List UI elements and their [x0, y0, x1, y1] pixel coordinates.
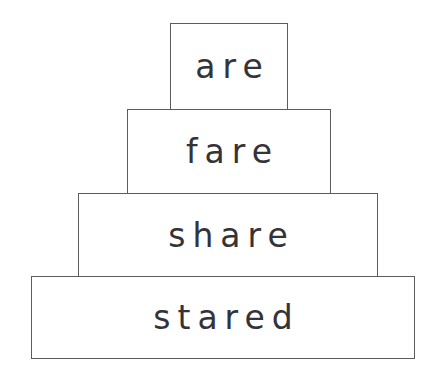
word-text-stared: stared — [146, 301, 299, 334]
word-box-row-1[interactable]: are — [170, 23, 288, 110]
word-text-share: share — [161, 219, 294, 252]
word-pyramid-diagram: are fare share stared — [0, 0, 421, 382]
word-box-row-4[interactable]: stared — [31, 276, 415, 359]
word-text-are: are — [188, 50, 269, 83]
word-box-row-3[interactable]: share — [78, 193, 378, 277]
word-box-row-2[interactable]: fare — [127, 109, 331, 194]
word-text-fare: fare — [179, 135, 279, 168]
